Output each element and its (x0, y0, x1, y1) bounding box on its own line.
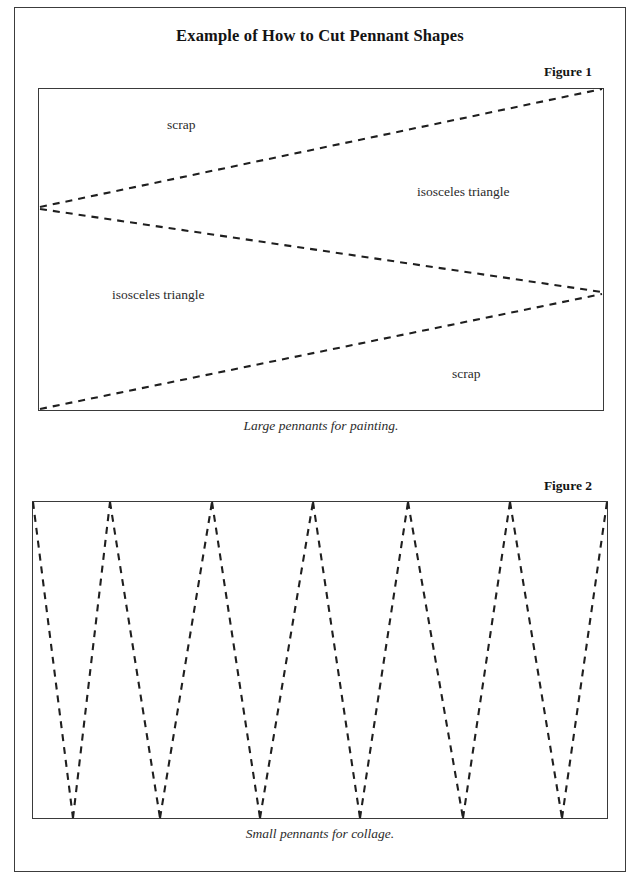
cut-line-middle (40, 209, 602, 292)
cut-line-zigzag-segment (33, 502, 73, 818)
figure-2-panel (32, 501, 608, 819)
figure-2-cut-lines (32, 501, 608, 819)
figure-1-label-isosceles-triangle-right: isosceles triangle (417, 184, 510, 200)
figure-2-label: Figure 2 (400, 478, 592, 494)
cut-line-zigzag-segment (408, 502, 463, 818)
cut-line-zigzag-segment (73, 502, 110, 818)
page-title: Example of How to Cut Pennant Shapes (14, 26, 626, 46)
cut-line-zigzag-segment (212, 502, 260, 818)
cut-line-zigzag-segment (510, 502, 562, 818)
cut-line-lower (40, 294, 602, 409)
figure-1-label-scrap-bottom: scrap (452, 366, 480, 382)
figure-2-caption: Small pennants for collage. (32, 826, 608, 842)
cut-line-zigzag-segment (110, 502, 160, 818)
figure-1-label: Figure 1 (400, 64, 592, 80)
cut-line-upper (40, 89, 602, 207)
cut-line-zigzag-segment (160, 502, 212, 818)
figure-1-cut-lines (38, 88, 604, 411)
cut-line-zigzag-segment (463, 502, 510, 818)
document-page: Example of How to Cut Pennant Shapes Fig… (0, 0, 640, 889)
cut-line-zigzag-segment (360, 502, 408, 818)
figure-1-label-isosceles-triangle-left: isosceles triangle (112, 287, 205, 303)
cut-line-zigzag-segment (313, 502, 360, 818)
figure-1-caption: Large pennants for painting. (38, 418, 604, 434)
figure-1-panel (38, 88, 604, 411)
figure-1-label-scrap-top: scrap (167, 117, 195, 133)
cut-line-zigzag-segment (260, 502, 313, 818)
cut-line-zigzag-segment (562, 502, 607, 818)
